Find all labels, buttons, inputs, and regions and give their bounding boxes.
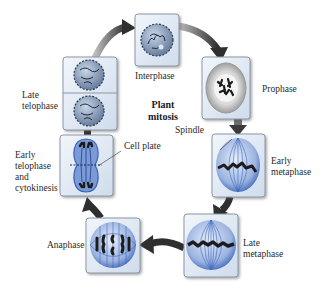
arrow-early-metaphase-to-late-metaphase (222, 197, 230, 210)
diagram-title: Plant mitosis (141, 99, 185, 123)
stage-late-metaphase (184, 214, 238, 277)
stage-anaphase (86, 218, 140, 273)
stage-late-telophase (63, 57, 117, 130)
label-anaphase: Anaphase (47, 240, 84, 251)
nucleus-icon (74, 60, 104, 90)
label-interphase: Interphase (135, 71, 175, 82)
stage-early-telophase (60, 135, 113, 196)
label-early-telophase: Early telophase and cytokinesis (15, 150, 58, 194)
stage-prophase (202, 57, 250, 119)
arrow-interphase-to-prophase (178, 26, 218, 50)
arrowhead-icon (139, 235, 154, 254)
nucleus-icon (141, 24, 173, 56)
arrow-late-telophase-to-interphase (95, 27, 126, 58)
stage-interphase (135, 14, 179, 66)
label-late-metaphase: Late metaphase (243, 238, 283, 260)
label-prophase: Prophase (262, 84, 297, 95)
label-early-metaphase: Early metaphase (271, 156, 311, 178)
stage-early-metaphase (212, 134, 265, 197)
callout-spindle: Spindle (175, 125, 204, 136)
callout-cell-plate: Cell plate (124, 141, 161, 152)
label-late-telophase: Late telophase (22, 90, 58, 112)
arrow-late-metaphase-to-anaphase (150, 242, 184, 248)
arrowhead-icon (122, 19, 136, 35)
nucleus-icon (74, 96, 104, 126)
